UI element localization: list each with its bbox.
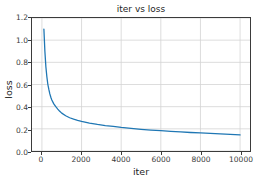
x-tick-label: 0 xyxy=(39,155,44,164)
x-tick-mark xyxy=(41,152,42,155)
x-tick-label: 6000 xyxy=(151,155,170,164)
x-axis-label: iter xyxy=(31,166,251,177)
x-tick-mark xyxy=(161,152,162,155)
x-tick-label: 8000 xyxy=(191,155,210,164)
x-tick-label: 4000 xyxy=(111,155,130,164)
series-line xyxy=(44,29,240,135)
y-tick-mark xyxy=(28,152,31,153)
x-tick-mark xyxy=(121,152,122,155)
y-tick-label: 0.4 xyxy=(2,103,28,112)
x-tick-label: 2000 xyxy=(71,155,90,164)
y-tick-label: 0.6 xyxy=(2,80,28,89)
x-tick-mark xyxy=(241,152,242,155)
chart-figure: iter vs loss loss iter 0.00.20.40.60.81.… xyxy=(0,0,263,187)
x-axis-tick-labels: 0200040006000800010000 xyxy=(0,155,263,167)
chart-title: iter vs loss xyxy=(31,3,251,15)
y-tick-label: 1.0 xyxy=(2,35,28,44)
y-tick-label: 0.8 xyxy=(2,58,28,67)
y-tick-label: 0.2 xyxy=(2,125,28,134)
loss-curve xyxy=(32,18,250,151)
x-tick-mark xyxy=(201,152,202,155)
plot-area xyxy=(31,17,251,152)
x-tick-label: 10000 xyxy=(229,155,253,164)
x-tick-mark xyxy=(81,152,82,155)
y-tick-label: 1.2 xyxy=(2,13,28,22)
